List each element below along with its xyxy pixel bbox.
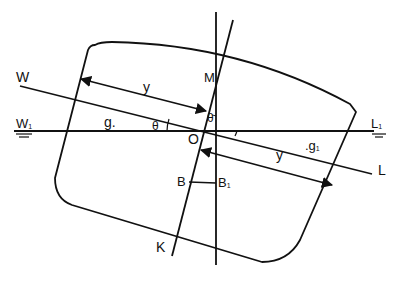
b-b1-segment xyxy=(189,182,216,183)
label-y-right: y xyxy=(276,147,283,163)
water-symbol-left xyxy=(16,134,32,137)
label-k: K xyxy=(156,239,166,255)
water-symbol-right xyxy=(372,134,386,137)
label-l: L xyxy=(378,162,386,178)
label-w1: W1 xyxy=(16,116,32,131)
label-w: W xyxy=(16,69,30,85)
ship-centerline-km xyxy=(172,20,233,256)
label-theta-top: θ xyxy=(207,111,214,125)
label-y-left: y xyxy=(143,79,150,95)
label-theta-left: θ xyxy=(152,119,159,133)
label-g: g. xyxy=(104,114,116,130)
label-m: M xyxy=(204,70,215,85)
label-o: O xyxy=(188,131,199,147)
angle-arc-left xyxy=(167,119,169,131)
label-g1: .g1 xyxy=(305,138,320,153)
label-b1: B1 xyxy=(218,175,231,190)
label-l1: L1 xyxy=(371,116,382,131)
stability-diagram: W W1 L1 L M O B B1 K g. .g1 y y θ θ xyxy=(0,0,400,285)
label-b: B xyxy=(177,174,186,189)
